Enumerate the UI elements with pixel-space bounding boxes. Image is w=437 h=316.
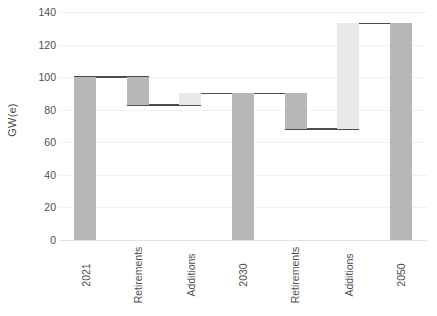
x-tick-label-2: Additions xyxy=(164,243,217,316)
x-tick-label-text: Retirements xyxy=(132,247,144,304)
x-tick-label-1: Retirements xyxy=(112,243,165,316)
bar-retirements-4[interactable] xyxy=(285,93,307,129)
y-tick-label-20: 20 xyxy=(22,201,56,213)
bar-2050-6[interactable] xyxy=(390,23,412,240)
gridline-140 xyxy=(59,12,427,13)
y-tick-label-100: 100 xyxy=(22,71,56,83)
y-tick-label-120: 120 xyxy=(22,39,56,51)
x-tick-label-text: Additions xyxy=(342,253,354,296)
x-tick-label-3: 2030 xyxy=(217,243,270,316)
y-axis-tick-labels: 020406080100120140 xyxy=(16,0,56,316)
bar-2021-0[interactable] xyxy=(74,77,96,240)
bar-additions-2[interactable] xyxy=(179,93,201,104)
x-tick-label-text: 2030 xyxy=(237,263,249,286)
y-tick-label-80: 80 xyxy=(22,104,56,116)
bar-2030-3[interactable] xyxy=(232,93,254,240)
x-tick-label-0: 2021 xyxy=(59,243,112,316)
x-tick-label-text: 2050 xyxy=(395,263,407,286)
y-tick-label-0: 0 xyxy=(22,234,56,246)
plot-area xyxy=(59,12,427,240)
y-tick-label-140: 140 xyxy=(22,6,56,18)
x-axis-tick-labels: 2021RetirementsAdditions2030RetirementsA… xyxy=(59,243,427,316)
bar-retirements-1[interactable] xyxy=(127,77,149,105)
x-tick-label-text: Retirements xyxy=(290,247,302,304)
x-tick-label-text: 2021 xyxy=(79,263,91,286)
x-tick-label-5: Additions xyxy=(322,243,375,316)
bar-additions-5[interactable] xyxy=(337,23,359,129)
y-tick-label-40: 40 xyxy=(22,169,56,181)
x-tick-label-4: Retirements xyxy=(269,243,322,316)
y-tick-label-60: 60 xyxy=(22,136,56,148)
gridline-120 xyxy=(59,45,427,46)
x-tick-label-6: 2050 xyxy=(374,243,427,316)
waterfall-chart: GW(e) 020406080100120140 2021Retirements… xyxy=(0,0,437,316)
gridline-0 xyxy=(59,240,427,241)
x-tick-label-text: Additions xyxy=(184,253,196,296)
